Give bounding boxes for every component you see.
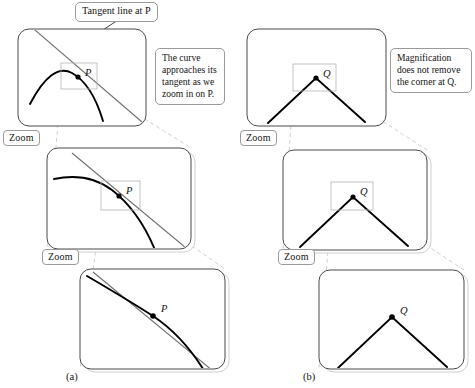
panel-b-level-1: Q	[247, 29, 386, 126]
zoom-badge-a-second: Zoom	[42, 249, 79, 265]
panel-b-level-3: Q	[319, 270, 468, 372]
point-p-a3-label: P	[160, 303, 168, 314]
zoom-badge-a-first: Zoom	[3, 130, 40, 146]
caption-panel-b: (b)	[303, 371, 315, 382]
point-q-b3-label: Q	[400, 305, 408, 316]
panel-a1-frame	[18, 29, 146, 126]
point-q-b2-label: Q	[360, 186, 368, 197]
point-p-a2	[116, 193, 121, 198]
caption-panel-a: (a)	[66, 371, 78, 382]
point-q-b2	[350, 194, 355, 199]
callout-magnification-corner: Magnification does not remove the corner…	[390, 48, 472, 93]
point-q-b1	[313, 75, 318, 80]
point-q-b3	[389, 314, 395, 320]
zoom-badge-b-first: Zoom	[240, 130, 277, 146]
zoom-badge-b-second: Zoom	[278, 249, 315, 265]
panel-a-level-3: P	[80, 269, 229, 372]
point-p-a1-label: P	[84, 67, 92, 78]
callout-tangent-line-at-p: Tangent line at P	[75, 2, 158, 22]
panel-a-level-2: P	[47, 148, 195, 252]
callout-curve-approaches-tangent: The curve approaches its tangent as we z…	[155, 48, 225, 105]
point-p-a2-label: P	[125, 185, 133, 196]
point-p-a3	[150, 313, 156, 319]
point-q-b1-label: Q	[323, 68, 331, 79]
panel-b-level-2: Q	[283, 150, 431, 253]
panel-a-level-1: P	[18, 24, 146, 126]
point-p-a1	[75, 74, 80, 79]
